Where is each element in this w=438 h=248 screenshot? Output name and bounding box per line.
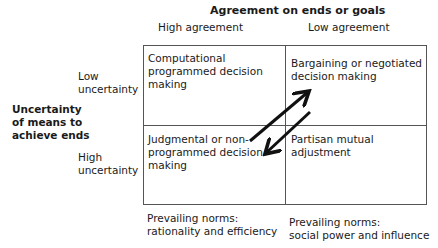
cell-line: making (148, 78, 263, 91)
cell-judgmental: Judgmental or non- programmed decision m… (148, 133, 263, 172)
cell-line: Bargaining or negotiated (291, 57, 422, 70)
grid-horizontal-divider (143, 125, 427, 126)
cell-line: programmed decision (148, 146, 263, 159)
norms-line: social power and influence (289, 229, 429, 242)
row-header-line: uncertainty (78, 164, 138, 177)
cell-line: adjustment (291, 146, 374, 159)
row-axis-label: Uncertainty of means to achieve ends (12, 103, 90, 142)
diagram-title: Agreement on ends or goals (0, 4, 438, 17)
cell-bargaining: Bargaining or negotiated decision making (291, 57, 422, 83)
norms-social-power: Prevailing norms: social power and influ… (289, 216, 429, 242)
cell-line: Judgmental or non- (148, 133, 263, 146)
cell-line: decision making (291, 70, 422, 83)
norms-line: Prevailing norms: (147, 212, 277, 225)
column-header-high-agreement: High agreement (158, 21, 243, 33)
column-header-low-agreement: Low agreement (308, 21, 390, 33)
row-axis-label-line: Uncertainty (12, 103, 90, 116)
row-axis-label-line: of means to (12, 116, 90, 129)
row-header-low-uncertainty: Low uncertainty (78, 70, 138, 96)
cell-line: making (148, 159, 263, 172)
row-header-line: High (78, 151, 138, 164)
row-header-line: uncertainty (78, 83, 138, 96)
cell-partisan: Partisan mutual adjustment (291, 133, 374, 159)
row-header-line: Low (78, 70, 138, 83)
cell-computational: Computational programmed decision making (148, 52, 263, 91)
cell-line: Computational (148, 52, 263, 65)
cell-line: Partisan mutual (291, 133, 374, 146)
norms-line: rationality and efficiency (147, 225, 277, 238)
cell-line: programmed decision (148, 65, 263, 78)
row-axis-label-line: achieve ends (12, 129, 90, 142)
norms-line: Prevailing norms: (289, 216, 429, 229)
norms-rationality: Prevailing norms: rationality and effici… (147, 212, 277, 238)
row-header-high-uncertainty: High uncertainty (78, 151, 138, 177)
